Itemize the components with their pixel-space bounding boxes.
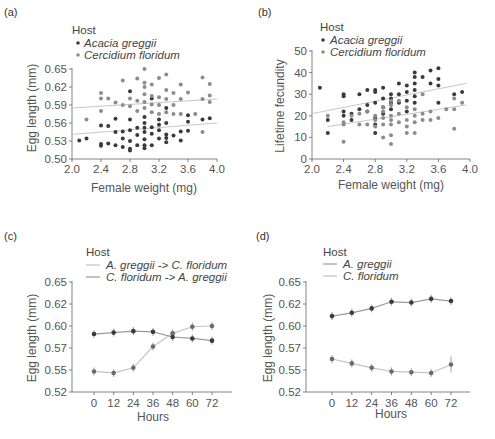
data-point xyxy=(389,122,393,126)
panel-c-legend-title: Host xyxy=(86,246,110,258)
data-point xyxy=(106,96,110,100)
data-point xyxy=(365,109,369,113)
data-point xyxy=(172,103,176,107)
data-point xyxy=(449,299,454,304)
data-point xyxy=(92,369,97,374)
data-point xyxy=(413,88,417,92)
data-point xyxy=(413,120,417,124)
data-point xyxy=(373,131,377,135)
x-tick-label: 3.6 xyxy=(180,163,196,175)
data-point xyxy=(413,114,417,118)
data-point xyxy=(172,134,176,138)
data-point xyxy=(381,135,385,139)
data-point xyxy=(121,137,125,141)
data-point xyxy=(357,92,361,96)
data-point xyxy=(128,96,132,100)
data-point xyxy=(111,330,116,335)
data-point xyxy=(150,125,154,129)
data-point xyxy=(373,88,377,92)
data-point xyxy=(128,147,132,151)
data-point xyxy=(436,84,440,88)
data-point xyxy=(164,88,168,92)
data-point xyxy=(135,126,139,130)
data-point xyxy=(135,77,139,81)
x-tick-label: 36 xyxy=(147,397,160,409)
data-point xyxy=(179,97,183,101)
panel-d-legend-ag: A. greggii xyxy=(342,258,392,270)
data-point xyxy=(106,141,110,145)
panel-d-xlabel: Hours xyxy=(375,407,407,421)
data-point xyxy=(143,106,147,110)
panel-b-legend-cercidium: Cercidium floridum xyxy=(330,46,426,58)
panel-a-legend-cercidium: Cercidium floridum xyxy=(84,49,180,61)
data-point xyxy=(421,112,425,116)
data-point xyxy=(373,118,377,122)
x-tick-label: 60 xyxy=(186,397,199,409)
data-point xyxy=(121,103,125,107)
x-tick-label: 2.8 xyxy=(367,163,383,175)
panel-b-axes: 010203040502.02.42.83.23.64.0 xyxy=(294,45,478,175)
y-tick-label: 0.57 xyxy=(45,342,67,354)
panel-a-legend-title: Host xyxy=(72,24,96,36)
data-point xyxy=(208,93,212,97)
data-point xyxy=(186,129,190,133)
data-point xyxy=(413,75,417,79)
panel-a: (a) Host Acacia greggii Cercidium florid… xyxy=(4,6,225,195)
data-point xyxy=(421,118,425,122)
panel-c-legend-cf-to-ag: C. floridum -> A. greggii xyxy=(106,271,227,283)
x-tick-label: 4.0 xyxy=(462,163,478,175)
x-tick-label: 0 xyxy=(329,397,335,409)
x-tick-label: 2.4 xyxy=(336,163,353,175)
data-point xyxy=(157,123,161,127)
data-point xyxy=(164,106,168,110)
data-point xyxy=(190,324,195,329)
y-tick-label: 0.65 xyxy=(45,276,67,288)
x-tick-label: 3.6 xyxy=(430,163,446,175)
data-point xyxy=(128,104,132,108)
data-point xyxy=(373,101,377,105)
data-point xyxy=(460,101,464,105)
panel-b-legend-title: Host xyxy=(320,21,344,33)
y-tick-label: 0.55 xyxy=(45,364,67,376)
data-point xyxy=(143,121,147,125)
data-point xyxy=(460,90,464,94)
x-tick-label: 60 xyxy=(425,397,438,409)
data-point xyxy=(389,107,393,111)
data-point xyxy=(381,86,385,90)
panel-d: (d) Host A. greggii C. floridum 0.520.55… xyxy=(256,230,470,421)
data-point xyxy=(342,120,346,124)
data-point xyxy=(106,124,110,128)
data-point xyxy=(131,329,136,334)
data-point xyxy=(143,143,147,147)
panel-a-ylabel: Egg length (mm) xyxy=(25,64,39,153)
data-point xyxy=(150,94,154,98)
y-tick-label: 0.55 xyxy=(279,364,301,376)
panel-d-legend-title: Host xyxy=(323,246,347,258)
figure-canvas: (a) Host Acacia greggii Cercidium florid… xyxy=(0,0,495,439)
data-point xyxy=(342,140,346,144)
data-point xyxy=(365,103,369,107)
data-point xyxy=(210,338,215,343)
data-point xyxy=(365,88,369,92)
data-point xyxy=(128,117,132,121)
panel-c: (c) Host A. greggii -> C. floridum C. fl… xyxy=(4,230,232,424)
data-point xyxy=(164,110,168,114)
data-point xyxy=(164,97,168,101)
x-tick-label: 2.0 xyxy=(304,163,320,175)
data-point xyxy=(151,330,156,335)
data-point xyxy=(405,131,409,135)
data-point xyxy=(99,109,103,113)
data-point xyxy=(444,107,448,111)
data-point xyxy=(85,117,89,121)
y-tick-label: 40 xyxy=(294,67,307,79)
y-tick-label: 0.56 xyxy=(45,117,67,129)
y-tick-label: 0.53 xyxy=(45,135,67,147)
data-point xyxy=(413,94,417,98)
data-point xyxy=(172,91,176,95)
panel-b-label: (b) xyxy=(258,6,271,18)
data-point xyxy=(452,92,456,96)
data-point xyxy=(397,112,401,116)
data-point xyxy=(179,129,183,133)
data-point xyxy=(164,121,168,125)
data-point xyxy=(436,101,440,105)
